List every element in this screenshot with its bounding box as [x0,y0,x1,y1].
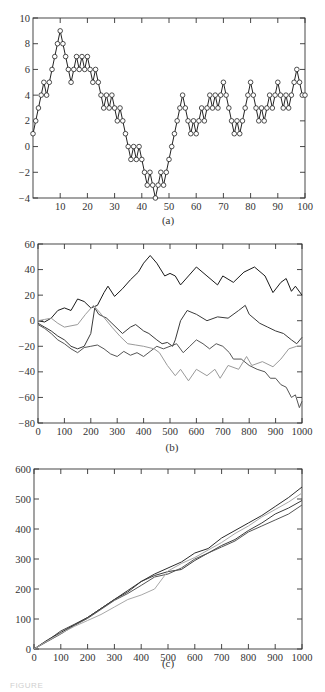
plot-frame [34,469,302,649]
figure-caption: FIGURE [10,681,43,690]
x-tick-label: 600 [187,652,203,663]
x-tick-label: 0 [31,652,36,663]
x-tick-label: 700 [214,652,230,663]
x-tick-label: 900 [267,652,283,663]
y-tick-label: 500 [15,494,31,505]
x-tick-label: 200 [80,652,96,663]
x-tick-label: 300 [107,652,123,663]
y-tick-label: 600 [15,464,31,475]
chart-c: 0100200300400500600700800900100001002003… [0,0,325,692]
series-line [34,505,302,649]
x-tick-label: 400 [133,652,149,663]
y-tick-label: 300 [15,554,31,565]
y-tick-label: 200 [15,584,31,595]
y-tick-label: 400 [15,524,31,535]
panel-label-c: (c) [162,657,174,669]
x-tick-label: 1000 [292,652,313,663]
y-tick-label: 100 [15,614,31,625]
x-tick-label: 800 [241,652,257,663]
y-tick-label: 0 [26,644,31,655]
x-tick-label: 100 [53,652,69,663]
